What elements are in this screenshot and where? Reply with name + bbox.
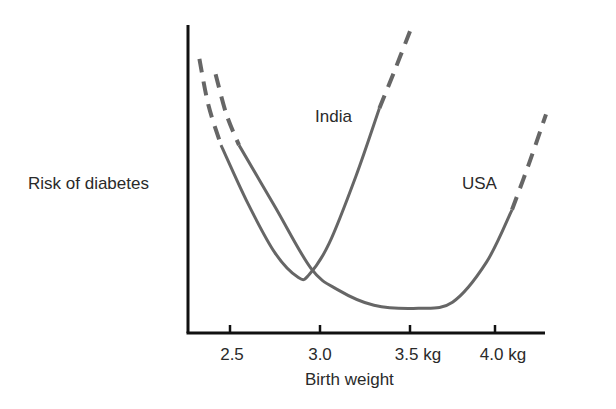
x-tick-label-2-5: 2.5 (220, 345, 244, 365)
x-tick-label-3-5: 3.5 kg (395, 345, 441, 365)
series-label-usa: USA (462, 174, 497, 194)
curve-extrapolated-segment (379, 31, 410, 108)
x-axis-label: Birth weight (305, 370, 394, 390)
series-india (199, 31, 410, 279)
curve-extrapolated-segment (199, 59, 221, 145)
x-tick-label-4-0: 4.0 kg (480, 345, 526, 365)
x-tick-label-3-0: 3.0 (308, 345, 332, 365)
y-axis-label: Risk of diabetes (28, 174, 149, 194)
curve-extrapolated-segment (512, 114, 546, 209)
curve-line (239, 145, 512, 308)
series-label-india: India (315, 107, 352, 127)
